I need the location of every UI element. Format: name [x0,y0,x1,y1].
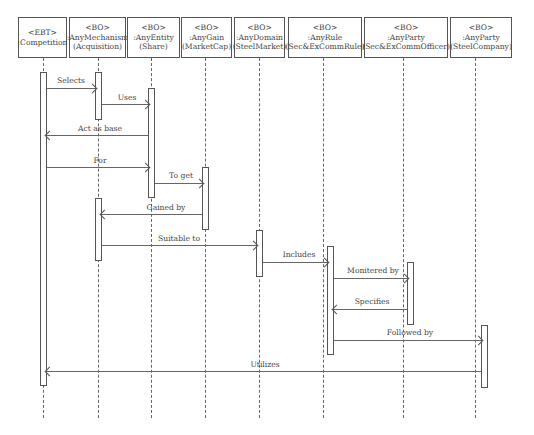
message-label: Followed by [387,328,433,337]
lifeline-any-gain [205,58,206,418]
participant-name: :Competition [18,38,68,48]
message-label: For [93,156,106,165]
participant-any-entity: <BO> :AnyEntity (Share) [127,17,180,58]
activation-bar-any-gain [202,167,209,230]
message-label: Monitered by [347,266,399,275]
participant-name: :AnyMechanism [67,33,129,43]
participant-instance: (Acquisition) [73,42,122,52]
activation-bar-any-party-officer [407,262,414,325]
message-label: Selects [57,76,85,85]
participant-name: :AnyParty [462,33,500,43]
message-label: Utilizes [250,360,279,369]
participant-name: :AnyRule [308,33,343,43]
message-arrow-gained-by [102,214,202,215]
participant-any-mechanism: <BO> :AnyMechanism (Acquisition) [69,17,126,58]
participant-stereotype: <BO> [194,23,219,33]
activation-bar-any-party-steel-company [481,325,488,388]
message-arrow-suitable-to [102,245,256,246]
activation-bar-any-mechanism-2 [95,198,102,261]
participant-instance: (SteelMarket) [233,42,287,52]
participant-stereotype: <EBT> [28,28,57,38]
participant-name: :AnyParty [387,33,425,43]
message-arrow-monitered-by [334,278,407,279]
message-arrow-specifies [334,309,407,310]
message-label: To get [169,171,193,180]
message-label: Act as base [78,124,122,133]
participant-instance: (Sec&ExCommOfficer) [362,42,450,52]
message-arrow-act-as-base [47,135,148,136]
activation-bar-competition [40,72,47,386]
lifeline-any-party-steel-company [475,58,476,418]
activation-bar-any-mechanism-1 [95,72,102,120]
activation-bar-any-domain [256,230,263,277]
message-arrow-selects [47,88,95,89]
message-label: Specifies [355,297,390,306]
participant-instance: (Share) [139,42,168,52]
participant-competition: <EBT> :Competition [18,17,67,58]
participant-instance: (MarketCap) [182,42,231,52]
lifeline-any-party-officer [403,58,404,418]
participant-stereotype: <BO> [85,23,110,33]
figure-caption-strip [10,428,410,434]
participant-any-domain: <BO> :AnyDomain (SteelMarket) [234,17,285,58]
message-arrow-to-get [155,183,202,184]
message-arrow-for [47,167,148,168]
participant-name: :AnyEntity [133,33,173,43]
message-label: Suitable to [158,234,200,243]
participant-stereotype: <BO> [141,23,166,33]
lifeline-any-rule [323,58,324,418]
participant-name: :AnyGain [189,33,224,43]
participant-instance: (SteelCompany) [450,42,512,52]
participant-stereotype: <BO> [394,23,419,33]
message-arrow-uses [102,104,148,105]
message-label: Includes [283,250,316,259]
participant-any-gain: <BO> :AnyGain (MarketCap) [181,17,232,58]
participant-stereotype: <BO> [469,23,494,33]
participant-instance: (Sec&ExCommRule) [286,42,365,52]
message-label: Gained by [147,203,186,212]
participant-any-party-officer: <BO> :AnyParty (Sec&ExCommOfficer) [364,17,448,58]
message-label: Uses [118,93,137,102]
message-arrow-includes [263,262,327,263]
participant-name: :AnyDomain [236,33,283,43]
participant-any-party-steel-company: <BO> :AnyParty (SteelCompany) [450,17,512,58]
participant-stereotype: <BO> [247,23,272,33]
message-arrow-utilizes [47,371,481,372]
message-arrow-followed-by [334,340,481,341]
participant-any-rule: <BO> :AnyRule (Sec&ExCommRule) [288,17,362,58]
participant-stereotype: <BO> [313,23,338,33]
